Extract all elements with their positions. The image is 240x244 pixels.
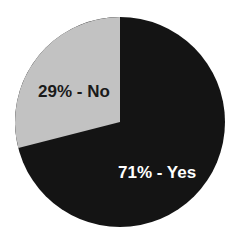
slice-label-yes: 71% - Yes [118,163,196,182]
slice-label-no: 29% - No [38,82,110,101]
pie-chart: 29% - No 71% - Yes [0,0,240,244]
